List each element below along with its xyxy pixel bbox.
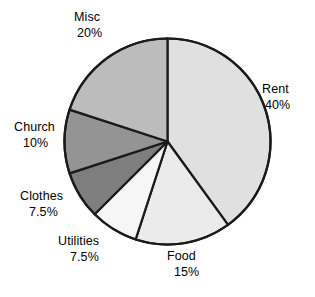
slice-label-clothes-percent: 7.5% bbox=[29, 205, 63, 221]
slice-label-rent-percent: 40% bbox=[265, 98, 290, 114]
slice-label-utilities: Utilities 7.5% bbox=[58, 234, 99, 265]
slice-label-rent-name: Rent bbox=[262, 82, 290, 98]
slice-label-clothes: Clothes 7.5% bbox=[20, 189, 63, 220]
slice-label-misc: Misc 20% bbox=[74, 10, 102, 41]
pie-chart-figure: Misc 20% Rent 40% Church 10% Clothes 7.5… bbox=[0, 0, 315, 297]
slice-label-church: Church 10% bbox=[14, 120, 55, 151]
slice-label-misc-percent: 20% bbox=[77, 26, 102, 42]
slice-label-food-percent: 15% bbox=[174, 265, 199, 281]
slice-label-clothes-name: Clothes bbox=[20, 189, 63, 205]
slice-label-utilities-percent: 7.5% bbox=[70, 250, 99, 266]
slice-label-utilities-name: Utilities bbox=[58, 234, 99, 250]
slice-label-food-name: Food bbox=[167, 249, 199, 265]
slice-label-church-percent: 10% bbox=[23, 136, 55, 152]
slice-label-food: Food 15% bbox=[167, 249, 199, 280]
slice-label-rent: Rent 40% bbox=[262, 82, 290, 113]
slice-label-church-name: Church bbox=[14, 120, 55, 136]
slice-label-misc-name: Misc bbox=[74, 10, 102, 26]
